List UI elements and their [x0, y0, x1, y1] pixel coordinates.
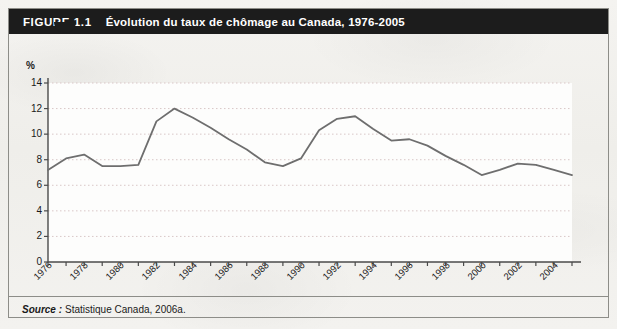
chart-gridlines	[48, 83, 572, 236]
chart-plot-region: % 02468101214 19761978198019821984198619…	[9, 34, 608, 289]
source-divider	[9, 296, 608, 297]
figure-title-bar: FIGURE 1.1 Évolution du taux de chômage …	[9, 9, 608, 34]
source-text: Statistique Canada, 2006a.	[65, 304, 186, 315]
figure-container: FIGURE 1.1 Évolution du taux de chômage …	[0, 0, 617, 329]
source-note: Source :Statistique Canada, 2006a.	[22, 304, 186, 315]
source-label: Source :	[22, 304, 62, 315]
line-chart-svg	[9, 34, 608, 289]
figure-title-text: Évolution du taux de chômage au Canada, …	[106, 16, 405, 28]
unemployment-rate-line	[48, 109, 572, 175]
chart-tick-marks	[44, 83, 572, 266]
